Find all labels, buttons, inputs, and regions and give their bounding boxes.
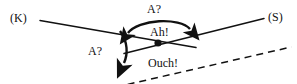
diagram-canvas: (K) (S) A? Ah! A? Ouch! — [0, 0, 297, 84]
endpoint-label-k: (K) — [10, 12, 27, 24]
arc-inner-label-ouch: Ouch! — [148, 57, 178, 69]
arc-left-label: A? — [88, 45, 102, 57]
solid-line-k — [40, 21, 196, 48]
arc-inner-label-ah: Ah! — [150, 26, 169, 38]
arc-top-label: A? — [147, 3, 161, 15]
endpoint-label-s: (S) — [268, 11, 283, 23]
intersection-dot — [154, 39, 161, 46]
